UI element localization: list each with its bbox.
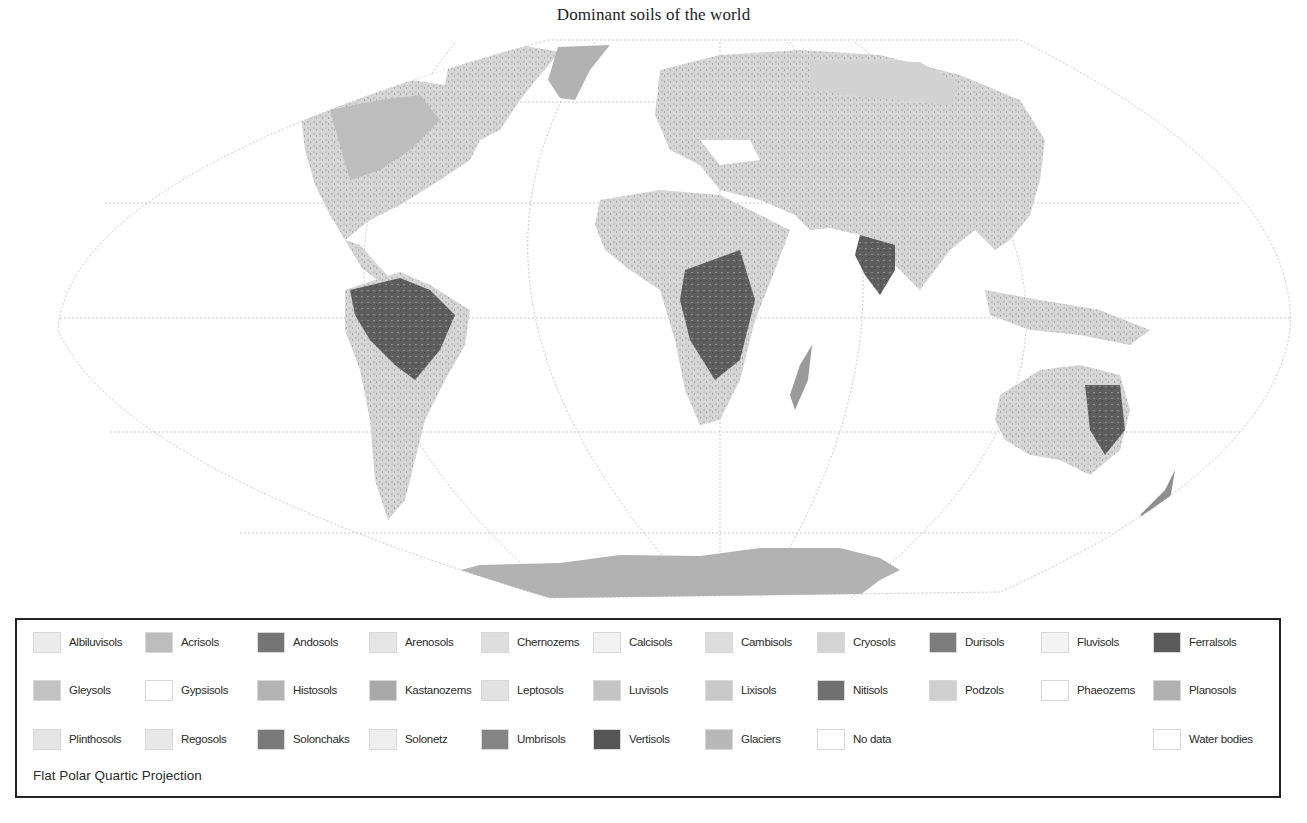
- legend-item-albiluvisols: Albiluvisols: [33, 630, 122, 654]
- legend-item-water-bodies: Water bodies: [1153, 727, 1253, 751]
- legend-item-ferralsols: Ferralsols: [1153, 630, 1236, 654]
- swatch-icon: [481, 729, 509, 750]
- landmasses: [225, 45, 1175, 600]
- legend-item-regosols: Regosols: [145, 727, 227, 751]
- swatch-icon: [257, 632, 285, 653]
- swatch-icon: [593, 729, 621, 750]
- legend-item-phaeozems: Phaeozems: [1041, 678, 1135, 702]
- legend-item-umbrisols: Umbrisols: [481, 727, 565, 751]
- legend-item-cryosols: Cryosols: [817, 630, 895, 654]
- swatch-icon: [257, 680, 285, 701]
- swatch-icon: [369, 632, 397, 653]
- world-soil-map: [0, 0, 1307, 610]
- legend-item-lixisols: Lixisols: [705, 678, 776, 702]
- legend-item-solonchaks: Solonchaks: [257, 727, 349, 751]
- legend-item-vertisols: Vertisols: [593, 727, 670, 751]
- swatch-icon: [929, 632, 957, 653]
- swatch-icon: [1041, 680, 1069, 701]
- map-legend: Albiluvisols Acrisols Andosols Arenosols…: [15, 618, 1281, 798]
- swatch-icon: [33, 729, 61, 750]
- legend-item-leptosols: Leptosols: [481, 678, 564, 702]
- legend-item-kastanozems: Kastanozems: [369, 678, 471, 702]
- swatch-icon: [593, 680, 621, 701]
- swatch-icon: [145, 680, 173, 701]
- swatch-icon: [369, 729, 397, 750]
- swatch-icon: [705, 680, 733, 701]
- swatch-icon: [705, 729, 733, 750]
- swatch-icon: [817, 632, 845, 653]
- swatch-icon: [145, 632, 173, 653]
- legend-item-solonetz: Solonetz: [369, 727, 447, 751]
- swatch-icon: [705, 632, 733, 653]
- swatch-icon: [33, 632, 61, 653]
- swatch-icon: [481, 632, 509, 653]
- swatch-icon: [1041, 632, 1069, 653]
- legend-item-nitisols: Nitisols: [817, 678, 888, 702]
- swatch-icon: [481, 680, 509, 701]
- legend-item-gypsisols: Gypsisols: [145, 678, 228, 702]
- legend-item-no-data: No data: [817, 727, 891, 751]
- legend-item-acrisols: Acrisols: [145, 630, 219, 654]
- swatch-icon: [257, 729, 285, 750]
- swatch-icon: [1153, 632, 1181, 653]
- swatch-icon: [593, 632, 621, 653]
- legend-item-glaciers: Glaciers: [705, 727, 781, 751]
- legend-item-cambisols: Cambisols: [705, 630, 792, 654]
- legend-item-fluvisols: Fluvisols: [1041, 630, 1119, 654]
- swatch-icon: [817, 680, 845, 701]
- legend-item-chernozems: Chernozems: [481, 630, 579, 654]
- swatch-icon: [929, 680, 957, 701]
- swatch-icon: [33, 680, 61, 701]
- legend-item-andosols: Andosols: [257, 630, 338, 654]
- swatch-icon: [145, 729, 173, 750]
- swatch-icon: [369, 680, 397, 701]
- swatch-icon: [1153, 729, 1181, 750]
- legend-item-planosols: Planosols: [1153, 678, 1236, 702]
- projection-label: Flat Polar Quartic Projection: [33, 768, 202, 783]
- legend-item-luvisols: Luvisols: [593, 678, 668, 702]
- legend-item-podzols: Podzols: [929, 678, 1004, 702]
- swatch-icon: [1153, 680, 1181, 701]
- legend-item-plinthosols: Plinthosols: [33, 727, 121, 751]
- legend-item-histosols: Histosols: [257, 678, 337, 702]
- legend-item-gleysols: Gleysols: [33, 678, 111, 702]
- legend-item-calcisols: Calcisols: [593, 630, 672, 654]
- swatch-icon: [817, 729, 845, 750]
- legend-item-arenosols: Arenosols: [369, 630, 453, 654]
- legend-item-durisols: Durisols: [929, 630, 1004, 654]
